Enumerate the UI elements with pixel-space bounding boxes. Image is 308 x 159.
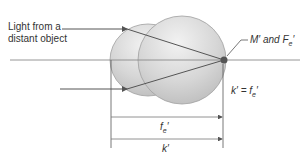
focal-point-text: M′ and F — [250, 34, 289, 45]
dimension-fe-prime: ′ — [167, 121, 169, 132]
light-source-label-line1: Light from a — [8, 21, 67, 33]
equation-prime: ′ — [256, 85, 258, 96]
dimension-k-text: k′ — [162, 143, 169, 154]
focal-point-label: M′ and Fe′ — [250, 34, 294, 50]
focal-point-dot — [221, 57, 228, 64]
light-source-label: Light from a distant object — [8, 21, 67, 45]
light-source-label-line2: distant object — [8, 33, 67, 45]
dimension-label-fe: fe′ — [160, 121, 169, 137]
focal-label-leader — [227, 40, 248, 56]
equation-label: k′ = fe′ — [231, 85, 258, 101]
equation-text: k′ = f — [231, 85, 252, 96]
dimension-label-k: k′ — [162, 143, 169, 155]
focal-point-prime: ′ — [292, 34, 294, 45]
